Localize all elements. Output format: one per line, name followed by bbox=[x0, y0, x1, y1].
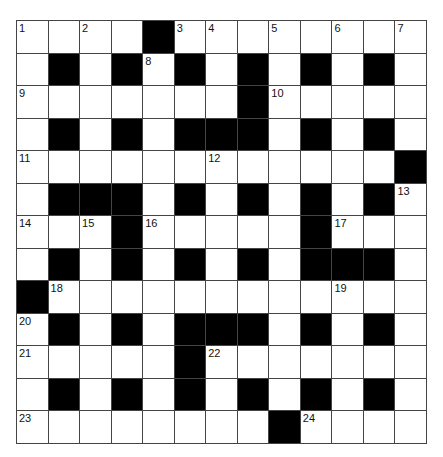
grid-cell[interactable] bbox=[332, 411, 364, 444]
grid-cell[interactable]: 14 bbox=[17, 216, 49, 249]
grid-cell[interactable] bbox=[301, 346, 333, 379]
grid-cell[interactable]: 15 bbox=[80, 216, 112, 249]
grid-cell[interactable] bbox=[364, 86, 396, 119]
grid-cell[interactable] bbox=[175, 411, 207, 444]
grid-cell[interactable] bbox=[332, 346, 364, 379]
grid-cell[interactable] bbox=[143, 411, 175, 444]
grid-cell[interactable] bbox=[364, 346, 396, 379]
grid-cell[interactable]: 2 bbox=[80, 21, 112, 54]
grid-cell[interactable] bbox=[364, 281, 396, 314]
grid-cell[interactable] bbox=[364, 151, 396, 184]
grid-cell[interactable] bbox=[206, 281, 238, 314]
grid-cell[interactable]: 23 bbox=[17, 411, 49, 444]
grid-cell[interactable] bbox=[49, 411, 81, 444]
grid-cell[interactable] bbox=[238, 216, 270, 249]
grid-cell[interactable] bbox=[80, 86, 112, 119]
grid-cell[interactable] bbox=[301, 151, 333, 184]
grid-cell[interactable] bbox=[269, 119, 301, 152]
grid-cell[interactable] bbox=[206, 184, 238, 217]
grid-cell[interactable] bbox=[301, 86, 333, 119]
grid-cell[interactable] bbox=[364, 216, 396, 249]
grid-cell[interactable] bbox=[395, 119, 427, 152]
grid-cell[interactable] bbox=[112, 86, 144, 119]
grid-cell[interactable] bbox=[332, 54, 364, 87]
grid-cell[interactable] bbox=[143, 119, 175, 152]
grid-cell[interactable] bbox=[364, 411, 396, 444]
grid-cell[interactable] bbox=[80, 151, 112, 184]
grid-cell[interactable] bbox=[17, 379, 49, 412]
grid-cell[interactable] bbox=[238, 346, 270, 379]
grid-cell[interactable] bbox=[395, 314, 427, 347]
grid-cell[interactable] bbox=[49, 21, 81, 54]
grid-cell[interactable] bbox=[332, 184, 364, 217]
grid-cell[interactable] bbox=[17, 119, 49, 152]
grid-cell[interactable] bbox=[175, 281, 207, 314]
grid-cell[interactable] bbox=[80, 314, 112, 347]
grid-cell[interactable]: 1 bbox=[17, 21, 49, 54]
grid-cell[interactable]: 16 bbox=[143, 216, 175, 249]
grid-cell[interactable]: 11 bbox=[17, 151, 49, 184]
grid-cell[interactable]: 10 bbox=[269, 86, 301, 119]
grid-cell[interactable]: 24 bbox=[301, 411, 333, 444]
grid-cell[interactable] bbox=[269, 151, 301, 184]
grid-cell[interactable] bbox=[143, 281, 175, 314]
grid-cell[interactable] bbox=[206, 411, 238, 444]
grid-cell[interactable] bbox=[395, 86, 427, 119]
grid-cell[interactable] bbox=[49, 216, 81, 249]
grid-cell[interactable] bbox=[175, 86, 207, 119]
grid-cell[interactable] bbox=[112, 21, 144, 54]
grid-cell[interactable]: 9 bbox=[17, 86, 49, 119]
grid-cell[interactable] bbox=[269, 184, 301, 217]
grid-cell[interactable] bbox=[143, 249, 175, 282]
grid-cell[interactable] bbox=[332, 86, 364, 119]
grid-cell[interactable] bbox=[301, 281, 333, 314]
grid-cell[interactable] bbox=[49, 151, 81, 184]
grid-cell[interactable] bbox=[269, 249, 301, 282]
grid-cell[interactable] bbox=[49, 346, 81, 379]
grid-cell[interactable] bbox=[395, 54, 427, 87]
grid-cell[interactable] bbox=[269, 281, 301, 314]
grid-cell[interactable] bbox=[143, 314, 175, 347]
grid-cell[interactable] bbox=[332, 314, 364, 347]
grid-cell[interactable] bbox=[395, 346, 427, 379]
grid-cell[interactable] bbox=[80, 119, 112, 152]
grid-cell[interactable] bbox=[395, 411, 427, 444]
grid-cell[interactable] bbox=[112, 411, 144, 444]
grid-cell[interactable] bbox=[80, 249, 112, 282]
grid-cell[interactable]: 19 bbox=[332, 281, 364, 314]
grid-cell[interactable]: 5 bbox=[269, 21, 301, 54]
grid-cell[interactable] bbox=[364, 21, 396, 54]
grid-cell[interactable]: 13 bbox=[395, 184, 427, 217]
grid-cell[interactable] bbox=[238, 411, 270, 444]
grid-cell[interactable]: 18 bbox=[49, 281, 81, 314]
grid-cell[interactable] bbox=[143, 151, 175, 184]
grid-cell[interactable] bbox=[80, 54, 112, 87]
grid-cell[interactable] bbox=[395, 281, 427, 314]
grid-cell[interactable] bbox=[238, 21, 270, 54]
grid-cell[interactable] bbox=[143, 346, 175, 379]
grid-cell[interactable] bbox=[175, 151, 207, 184]
grid-cell[interactable] bbox=[206, 86, 238, 119]
grid-cell[interactable] bbox=[206, 249, 238, 282]
grid-cell[interactable]: 3 bbox=[175, 21, 207, 54]
grid-cell[interactable]: 4 bbox=[206, 21, 238, 54]
grid-cell[interactable] bbox=[112, 346, 144, 379]
grid-cell[interactable] bbox=[80, 346, 112, 379]
grid-cell[interactable] bbox=[17, 54, 49, 87]
grid-cell[interactable] bbox=[332, 119, 364, 152]
grid-cell[interactable]: 6 bbox=[332, 21, 364, 54]
grid-cell[interactable]: 21 bbox=[17, 346, 49, 379]
grid-cell[interactable] bbox=[112, 281, 144, 314]
grid-cell[interactable] bbox=[206, 216, 238, 249]
grid-cell[interactable] bbox=[17, 184, 49, 217]
grid-cell[interactable] bbox=[80, 379, 112, 412]
grid-cell[interactable] bbox=[395, 379, 427, 412]
grid-cell[interactable] bbox=[143, 184, 175, 217]
grid-cell[interactable] bbox=[206, 54, 238, 87]
grid-cell[interactable] bbox=[332, 379, 364, 412]
grid-cell[interactable] bbox=[395, 216, 427, 249]
grid-cell[interactable] bbox=[80, 281, 112, 314]
grid-cell[interactable] bbox=[301, 21, 333, 54]
grid-cell[interactable] bbox=[238, 151, 270, 184]
grid-cell[interactable] bbox=[143, 379, 175, 412]
